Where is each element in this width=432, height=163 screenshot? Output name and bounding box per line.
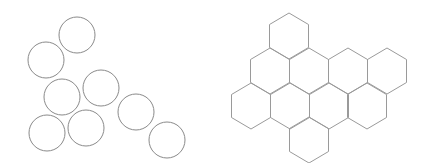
hexagon-10	[290, 117, 329, 163]
circle-4	[83, 70, 119, 106]
circle-6	[68, 110, 104, 146]
circle-8	[149, 122, 185, 158]
circle-7	[118, 94, 154, 130]
diagram-svg	[0, 0, 432, 163]
diagram-canvas	[0, 0, 432, 163]
circle-packing-panel	[28, 17, 185, 158]
hexagon-6	[232, 83, 271, 129]
circle-5	[29, 115, 65, 151]
circle-2	[28, 42, 64, 78]
hexagon-4	[329, 48, 368, 94]
circle-1	[59, 17, 95, 53]
circle-3	[44, 79, 80, 115]
hexagon-tiling-panel	[232, 13, 407, 163]
